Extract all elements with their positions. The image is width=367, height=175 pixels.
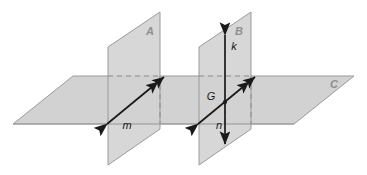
point-g-label: G bbox=[207, 90, 216, 102]
line-m-label: m bbox=[122, 119, 131, 131]
plane-c-surface bbox=[13, 76, 354, 124]
line-k-label: k bbox=[231, 40, 237, 52]
plane-c-label: C bbox=[330, 78, 339, 90]
plane-b-label: B bbox=[235, 25, 243, 37]
point-g-dot bbox=[223, 100, 227, 104]
geometry-figure: A B C m n k G bbox=[0, 0, 367, 175]
plane-a-label: A bbox=[145, 25, 154, 37]
geometry-diagram: A B C m n k G bbox=[0, 0, 367, 175]
line-n-label: n bbox=[216, 119, 222, 131]
